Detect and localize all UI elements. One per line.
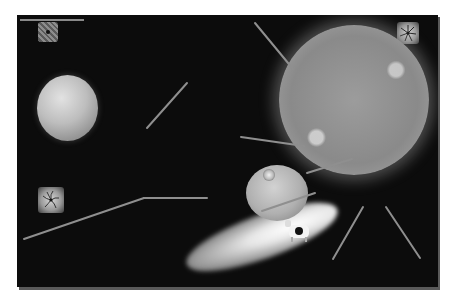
laser-beams <box>17 15 438 287</box>
game-canvas[interactable] <box>17 15 438 287</box>
